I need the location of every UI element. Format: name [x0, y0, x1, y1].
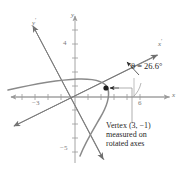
- parabola-curve: [8, 79, 109, 156]
- x-axis-label: x: [172, 92, 175, 100]
- x-tick-label-negative: −3: [32, 100, 39, 108]
- y-prime-mark: ′: [35, 17, 36, 23]
- angle-label: θ = 26.6°: [131, 62, 162, 72]
- vertex-caption: Vertex (3, −1) measured on rotated axes: [106, 122, 151, 149]
- rotated-axes-figure: x y x′ y′ −3 6 4 −5 θ = 26.6° Vertex (3,…: [0, 0, 187, 175]
- x-prime-axis-label: x′: [158, 38, 162, 49]
- x-tick-label-positive: 6: [138, 100, 142, 108]
- vertex-callout-path: [119, 88, 132, 123]
- plot-canvas: [0, 0, 187, 175]
- y-axis-label: y: [71, 12, 74, 20]
- y-tick-label-positive: 4: [63, 40, 67, 48]
- y-tick-label-negative: −5: [60, 145, 67, 153]
- y-prime-axis-label: y′: [32, 17, 36, 28]
- vertex-caption-line-3: rotated axes: [106, 140, 151, 149]
- y-prime-axis-neg: [33, 26, 103, 159]
- x-prime-mark: ′: [161, 38, 162, 44]
